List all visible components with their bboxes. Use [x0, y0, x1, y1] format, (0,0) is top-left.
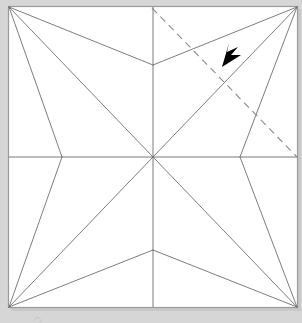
crease-pattern-canvas: [0, 0, 302, 323]
origami-diagram: [0, 0, 302, 323]
